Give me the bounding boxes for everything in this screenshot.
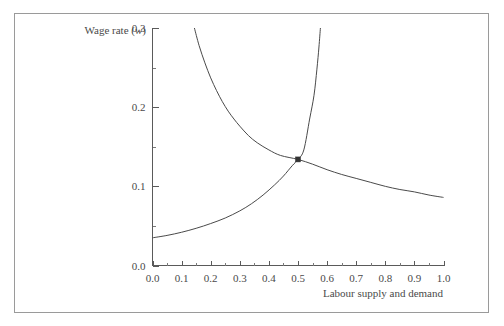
chart-canvas: 0.00.10.20.30.40.50.60.70.80.91.0 0.00.1…: [0, 0, 504, 326]
x-tick-label: 0.7: [349, 272, 363, 284]
y-axis-title-suffix: ): [142, 24, 146, 37]
data-curves: [153, 28, 444, 238]
x-tick-label: 0.2: [204, 272, 218, 284]
x-tick-label: 0.9: [408, 272, 422, 284]
x-tick-label: 0.6: [320, 272, 334, 284]
y-axis-ticks: [153, 29, 159, 267]
y-tick-label: 0.2: [132, 101, 146, 113]
x-axis-title: Labour supply and demand: [323, 287, 444, 299]
x-tick-label: 0.4: [262, 272, 276, 284]
x-tick-label: 0.1: [175, 272, 189, 284]
x-tick-label: 0.8: [378, 272, 392, 284]
equilibrium-marker: [296, 157, 301, 162]
y-axis-title: Wage rate (w): [85, 24, 147, 37]
x-axis-tick-labels: 0.00.10.20.30.40.50.60.70.80.91.0: [146, 272, 451, 284]
demand-curve: [194, 28, 443, 197]
x-tick-label: 0.3: [233, 272, 247, 284]
y-axis-tick-labels: 0.00.10.20.3: [132, 22, 146, 272]
axes-group: [153, 28, 444, 266]
figure-root: 0.00.10.20.30.40.50.60.70.80.91.0 0.00.1…: [0, 0, 504, 326]
x-tick-label: 0.0: [146, 272, 160, 284]
x-axis-ticks: [154, 261, 445, 266]
supply-curve: [153, 28, 321, 238]
y-tick-label: 0.0: [132, 260, 146, 272]
x-tick-label: 0.5: [291, 272, 305, 284]
y-axis-title-prefix: Wage rate (: [85, 24, 136, 37]
equilibrium-dot: [296, 157, 301, 162]
axis-titles: Wage rate (w) Labour supply and demand: [85, 24, 444, 299]
x-tick-label: 1.0: [437, 272, 451, 284]
y-tick-label: 0.1: [132, 180, 146, 192]
